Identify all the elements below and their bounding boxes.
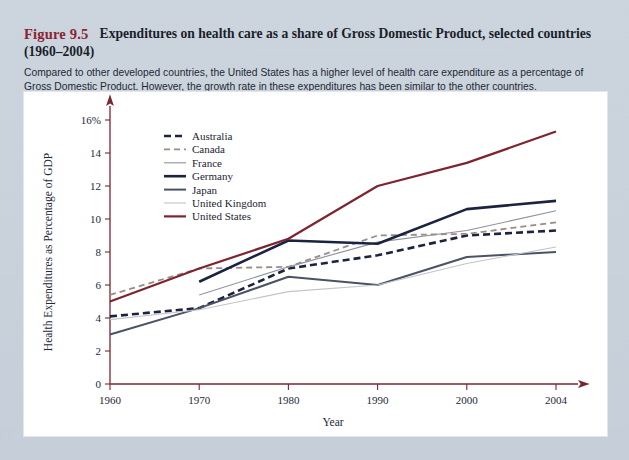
series-line-france — [199, 211, 556, 295]
x-tick-label: 2004 — [545, 394, 568, 406]
y-tick-label: 2 — [96, 345, 102, 357]
series-line-australia — [110, 231, 556, 317]
figure-header: Figure 9.5 Expenditures on health care a… — [24, 26, 612, 94]
legend-layer: AustraliaCanadaFranceGermanyJapanUnited … — [164, 130, 267, 222]
legend-label-united-kingdom: United Kingdom — [192, 197, 267, 209]
y-tick-label: 10 — [90, 213, 102, 225]
x-tick-label: 1980 — [277, 394, 300, 406]
figure-page: Figure 9.5 Expenditures on health care a… — [0, 0, 629, 460]
y-tick-label: 6 — [96, 279, 102, 291]
x-tick-label: 1970 — [188, 394, 211, 406]
legend-label-japan: Japan — [192, 184, 218, 196]
line-chart: 0246810121416%196019701980199020002004Ye… — [24, 92, 607, 436]
x-tick-label: 2000 — [456, 394, 479, 406]
legend-label-united-states: United States — [192, 210, 251, 222]
y-tick-label: 8 — [96, 246, 102, 258]
y-tick-label: 16% — [81, 114, 101, 126]
x-tick-label: 1990 — [367, 394, 390, 406]
chart-panel: 0246810121416%196019701980199020002004Ye… — [24, 92, 607, 436]
series-line-united-kingdom — [110, 247, 556, 320]
series-layer — [110, 132, 556, 335]
y-tick-label: 0 — [96, 378, 102, 390]
y-tick-label: 12 — [90, 180, 101, 192]
figure-subtitle: (1960–2004) — [24, 44, 612, 60]
y-tick-label: 14 — [90, 147, 102, 159]
series-line-japan — [110, 252, 556, 335]
series-line-germany — [199, 201, 556, 282]
y-tick-label: 4 — [96, 312, 102, 324]
legend-label-canada: Canada — [192, 143, 225, 155]
legend-label-germany: Germany — [192, 170, 233, 182]
x-axis-title: Year — [322, 416, 343, 428]
legend-label-australia: Australia — [192, 130, 232, 142]
y-axis-title: Health Expenditures as Percentage of GDP — [42, 153, 55, 351]
legend-label-france: France — [192, 157, 222, 169]
figure-label: Figure 9.5 — [24, 26, 100, 43]
axes-layer: 0246810121416%196019701980199020002004Ye… — [42, 106, 578, 428]
figure-caption: Compared to other developed countries, t… — [24, 66, 609, 94]
x-tick-label: 1960 — [99, 394, 122, 406]
figure-title: Expenditures on health care as a share o… — [100, 26, 612, 42]
